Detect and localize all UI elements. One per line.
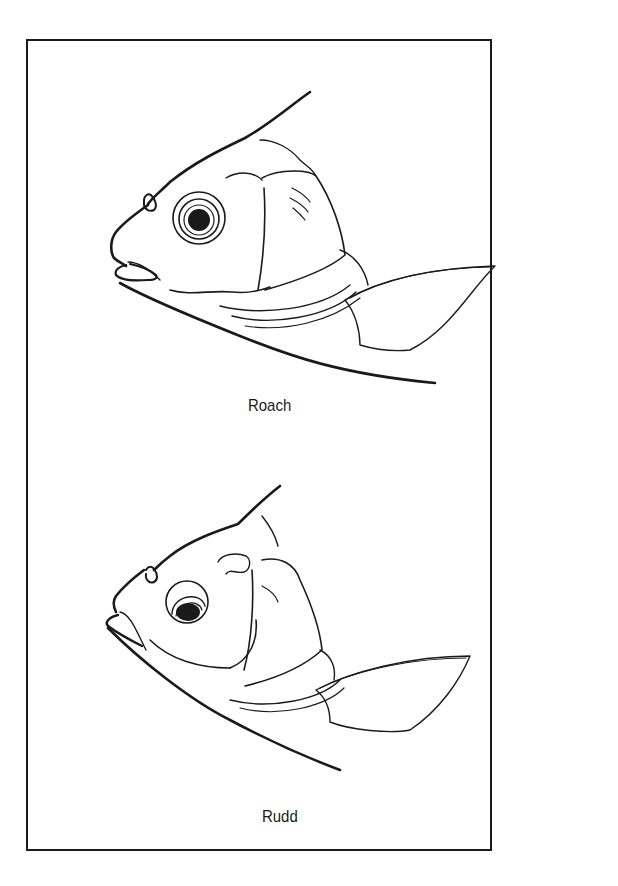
rudd-label: Rudd xyxy=(262,807,298,827)
rudd-head-illustration xyxy=(0,0,618,886)
